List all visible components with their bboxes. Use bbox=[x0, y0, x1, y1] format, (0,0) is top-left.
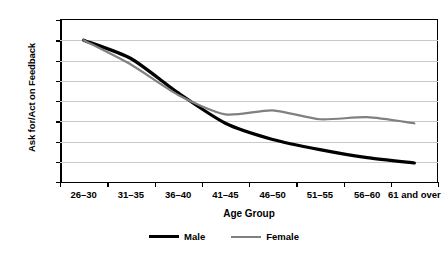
x-axis-title: Age Group bbox=[60, 208, 438, 219]
legend-label: Female bbox=[266, 232, 299, 242]
legend-item-female[interactable]: Female bbox=[231, 232, 299, 242]
series-layer bbox=[0, 0, 448, 258]
line-chart: Ask for/Act on Feedback 75.070.065.060.0… bbox=[0, 0, 448, 258]
male-line-swatch bbox=[149, 235, 179, 238]
series-line-female bbox=[84, 40, 415, 123]
legend-item-male[interactable]: Male bbox=[149, 232, 205, 242]
chart-legend: MaleFemale bbox=[0, 232, 448, 242]
female-line-swatch bbox=[231, 236, 261, 238]
series-line-male bbox=[84, 40, 415, 163]
legend-label: Male bbox=[184, 232, 205, 242]
